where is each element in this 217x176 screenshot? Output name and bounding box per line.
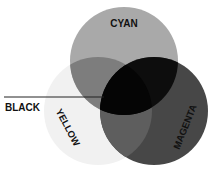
cmyk-venn-diagram: CYAN BLACK YELLOW MAGENTA <box>0 0 217 176</box>
label-cyan: CYAN <box>110 18 137 29</box>
label-black: BLACK <box>5 102 41 113</box>
